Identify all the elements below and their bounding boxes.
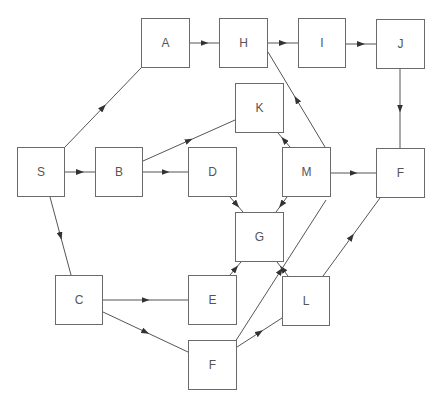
node-label: L xyxy=(303,294,310,308)
node-f1: F xyxy=(376,148,425,198)
node-label: D xyxy=(208,165,217,179)
node-label: E xyxy=(208,293,216,307)
edge-c-to-f2 xyxy=(103,312,188,352)
edge-m-to-k xyxy=(278,133,290,147)
node-m: M xyxy=(282,147,331,197)
node-label: F xyxy=(209,358,216,372)
edge-l-to-f1 xyxy=(323,198,380,276)
node-label: H xyxy=(239,36,248,50)
node-label: G xyxy=(255,230,264,244)
edge-f2-to-l xyxy=(237,318,282,347)
node-label: B xyxy=(115,165,123,179)
network-diagram: SABCHIJKDMFGELF xyxy=(0,0,438,407)
node-a: A xyxy=(141,18,190,68)
edge-m-to-g xyxy=(276,197,287,212)
node-s: S xyxy=(17,147,65,197)
node-g: G xyxy=(235,212,284,262)
edge-d-to-g xyxy=(230,197,243,212)
edge-s-to-c xyxy=(50,197,71,275)
node-e: E xyxy=(188,275,237,325)
node-label: I xyxy=(320,36,323,50)
node-label: F xyxy=(397,166,404,180)
node-f2: F xyxy=(188,340,237,390)
node-l: L xyxy=(282,276,330,326)
node-i: I xyxy=(298,18,346,68)
node-label: A xyxy=(161,36,169,50)
node-label: C xyxy=(75,293,84,307)
edge-e-to-g xyxy=(230,262,241,275)
node-k: K xyxy=(235,83,284,133)
node-j: J xyxy=(376,19,425,69)
edge-s-to-a xyxy=(65,68,141,147)
node-label: K xyxy=(255,101,263,115)
node-b: B xyxy=(95,147,143,197)
node-label: S xyxy=(37,165,45,179)
node-c: C xyxy=(55,275,103,325)
node-d: D xyxy=(188,147,237,197)
node-h: H xyxy=(219,18,268,68)
node-label: J xyxy=(398,37,404,51)
node-label: M xyxy=(302,165,312,179)
